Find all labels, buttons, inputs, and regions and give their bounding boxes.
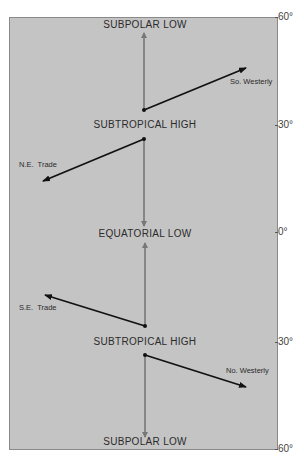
tick-60s: 60° — [278, 443, 293, 454]
belt-subpolar-low-south: SUBPOLAR LOW — [0, 436, 290, 447]
se-trade-arrow — [45, 295, 145, 326]
label-ne-trade: N.E. Trade — [19, 160, 57, 169]
belt-subtropical-high-south: SUBTROPICAL HIGH — [0, 336, 290, 347]
label-so-westerly: So. Westerly — [230, 77, 272, 86]
label-no-westerly: No. Westerly — [226, 366, 269, 375]
tick-30s: 30° — [278, 336, 293, 347]
belt-subpolar-low-north: SUBPOLAR LOW — [0, 19, 290, 30]
tick-0: 0° — [278, 226, 288, 237]
so-westerly-arrow — [144, 68, 246, 110]
tick-60n: 60° — [278, 11, 293, 22]
label-se-trade: S.E. Trade — [19, 303, 57, 312]
belt-equatorial-low: EQUATORIAL LOW — [0, 228, 290, 239]
tick-30n: 30° — [278, 119, 293, 130]
belt-subtropical-high-north: SUBTROPICAL HIGH — [0, 119, 290, 130]
ne-trade-arrow — [43, 139, 144, 181]
